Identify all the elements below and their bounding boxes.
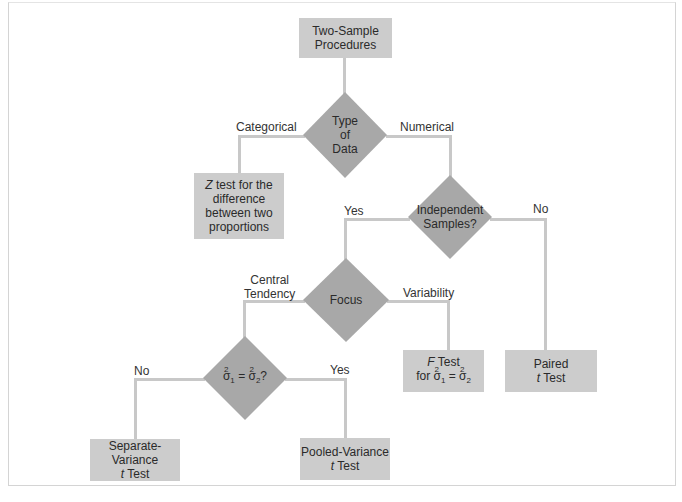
edge-label-variability: Variability (403, 286, 454, 300)
node-label: Paired (534, 357, 569, 371)
node-label: Procedures (315, 38, 376, 52)
edge-label-indep-no: No (533, 202, 548, 216)
edge-label-indep-yes: Yes (344, 204, 364, 218)
connector-numerical-down (449, 135, 452, 177)
node-z-test: Z test for the difference between two pr… (194, 173, 284, 239)
edge-label-line: Central (244, 273, 295, 287)
diagram-frame (8, 2, 676, 486)
edge-label-categorical: Categorical (236, 120, 297, 134)
subscript: 1 (230, 376, 234, 385)
decision-focus: Focus (303, 258, 389, 342)
edge-label-numerical: Numerical (400, 120, 454, 134)
node-label: difference (213, 192, 265, 206)
connector-var-no-down (134, 378, 137, 439)
equals: = (445, 369, 459, 383)
decision-independent-samples: Independent Samples? (408, 175, 492, 259)
connector-focus-right (387, 300, 450, 303)
node-label: Two-Sample (312, 24, 379, 38)
superscript: 2 (434, 363, 438, 377)
node-label: for σ21 = σ22 (416, 369, 471, 388)
node-two-sample-procedures: Two-Sample Procedures (299, 18, 392, 58)
connector-indep-left (344, 218, 410, 221)
node-label-text: for (416, 369, 433, 383)
connector-var-yes-down (344, 378, 347, 438)
node-label: Pooled-Variance (301, 445, 389, 459)
superscript: 2 (250, 363, 254, 377)
decision-label: Data (332, 142, 357, 156)
connector-variability-down (447, 300, 450, 350)
edge-label-central-tendency: Central Tendency (244, 273, 295, 301)
node-label: Z test for the (205, 178, 272, 192)
node-label: t Test (331, 459, 359, 473)
equals: = (235, 369, 249, 383)
node-pooled-variance-t-test: Pooled-Variance t Test (300, 438, 390, 480)
decision-variances-equal: σ21 = σ22? (203, 336, 287, 420)
subscript: 2 (256, 376, 260, 385)
node-separate-variance-t-test: Separate-Variance t Test (90, 439, 180, 481)
node-paired-t-test: Paired t Test (505, 350, 597, 392)
z-symbol: Z (205, 178, 212, 192)
decision-label: σ21 = σ22? (223, 369, 267, 388)
question-mark: ? (260, 369, 267, 383)
connector-root-to-type (343, 58, 346, 94)
decision-label: Type (332, 114, 358, 128)
connector-indep-right (490, 218, 547, 221)
subscript: 1 (441, 376, 445, 385)
edge-label-var-yes: Yes (330, 363, 350, 377)
node-label: proportions (209, 220, 269, 234)
connector-type-right (386, 135, 452, 138)
node-label-text: Test (540, 371, 565, 385)
superscript: 2 (460, 363, 464, 377)
connector-indep-no-down (544, 218, 547, 350)
superscript: 2 (224, 363, 228, 377)
decision-label: Focus (330, 293, 363, 307)
edge-label-var-no: No (134, 364, 149, 378)
decision-type-of-data: Type of Data (303, 92, 387, 178)
node-label: F Test (427, 355, 459, 369)
connector-var-left (134, 378, 205, 381)
connector-type-left (238, 135, 305, 138)
node-f-test: F Test for σ21 = σ22 (403, 350, 484, 392)
edge-label-line: Tendency (244, 287, 295, 301)
node-label-text: test for the (213, 178, 273, 192)
connector-categorical-down (238, 135, 241, 173)
node-label: t Test (121, 467, 149, 481)
node-label: t Test (537, 371, 565, 385)
connector-indep-yes-down (344, 218, 347, 260)
node-label-text: Test (124, 467, 149, 481)
connector-var-right (285, 378, 347, 381)
node-label: Separate-Variance (90, 439, 180, 467)
connector-central-down (243, 300, 246, 338)
decision-label: Samples? (423, 217, 476, 231)
subscript: 2 (466, 376, 470, 385)
decision-label: of (340, 128, 350, 142)
decision-label: Independent (417, 203, 484, 217)
node-label-text: Test (334, 459, 359, 473)
node-label: between two (205, 206, 272, 220)
